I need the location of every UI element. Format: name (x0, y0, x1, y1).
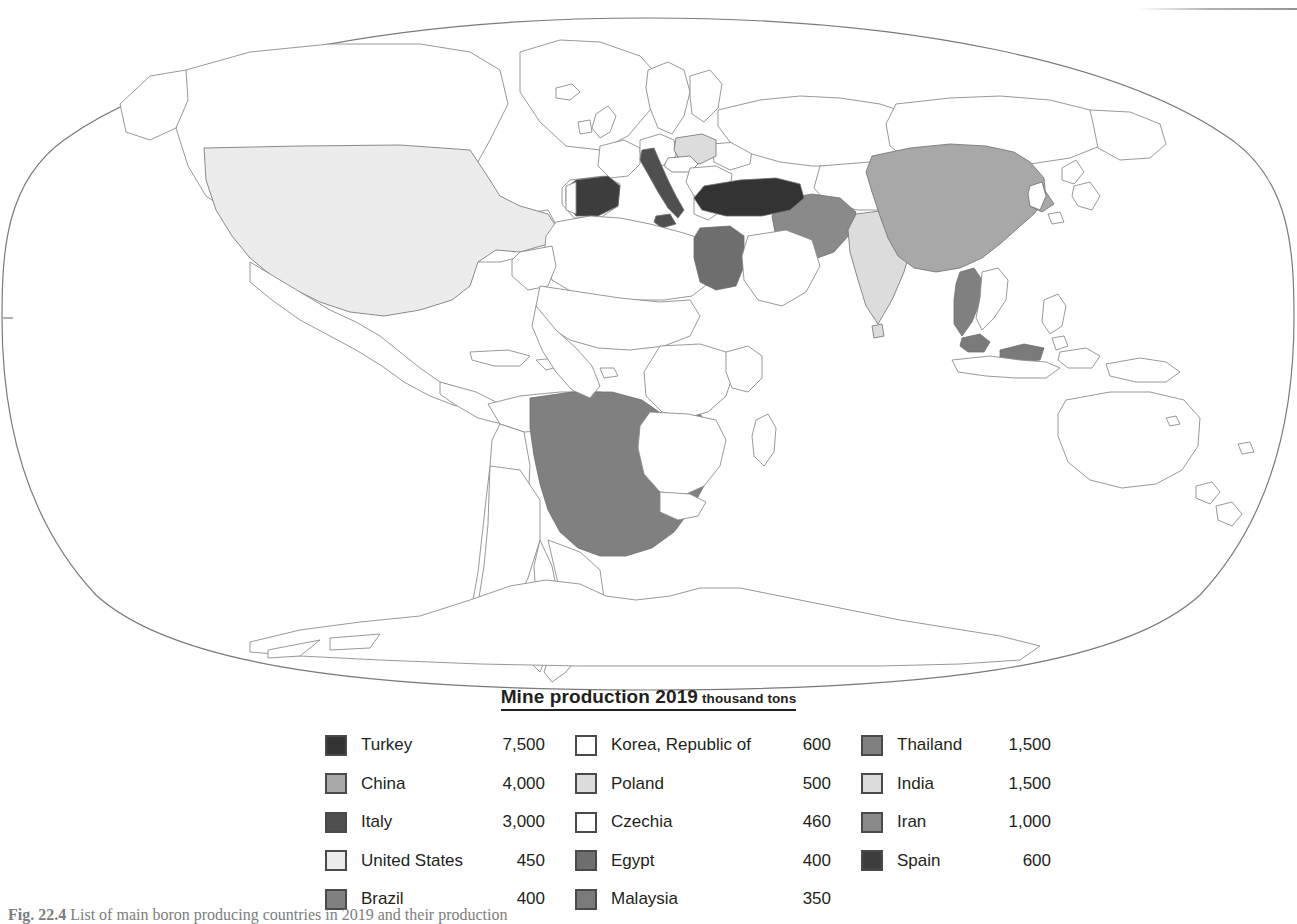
legend-swatch-korea-republic-of (575, 735, 597, 756)
legend-value-italy: 3,000 (483, 812, 545, 832)
legend-swatch-india (861, 773, 883, 794)
legend-swatch-iran (861, 812, 883, 833)
map-legend: Mine production 2019thousand tons Turkey… (0, 686, 1297, 919)
legend-value-spain: 600 (989, 851, 1051, 871)
legend-item[interactable]: United States 450 (325, 842, 545, 881)
country-egypt (694, 226, 744, 290)
legend-swatch-united-states (325, 850, 347, 871)
country-thailand (954, 268, 982, 336)
legend-item[interactable]: China 4,000 (325, 765, 545, 804)
country-united-states (204, 145, 560, 316)
legend-country-spain: Spain (897, 851, 989, 871)
legend-country-italy: Italy (361, 812, 483, 832)
antarctica (250, 580, 1040, 666)
legend-swatch-turkey (325, 735, 347, 756)
legend-title: Mine production 2019thousand tons (501, 686, 797, 711)
legend-swatch-spain (861, 850, 883, 871)
figure-caption-text: List of main boron producing countries i… (70, 906, 507, 923)
legend-swatch-czechia (575, 812, 597, 833)
oceania (1058, 392, 1254, 526)
legend-item[interactable]: Turkey 7,500 (325, 726, 545, 765)
legend-value-egypt: 400 (779, 851, 831, 871)
legend-item[interactable]: Poland 500 (575, 765, 831, 804)
legend-item[interactable]: Czechia 460 (575, 803, 831, 842)
legend-country-turkey: Turkey (361, 735, 483, 755)
legend-item[interactable]: India 1,500 (861, 765, 1051, 804)
legend-column-1: Turkey 7,500 China 4,000 Italy 3,000 Uni… (325, 726, 545, 919)
legend-country-united-states: United States (361, 851, 483, 871)
legend-item[interactable]: Thailand 1,500 (861, 726, 1051, 765)
legend-country-thailand: Thailand (897, 735, 989, 755)
legend-item[interactable]: Spain 600 (861, 842, 1051, 881)
legend-column-3: Thailand 1,500 India 1,500 Iran 1,000 Sp… (861, 726, 1051, 880)
legend-columns: Turkey 7,500 China 4,000 Italy 3,000 Uni… (0, 726, 1297, 919)
legend-value-thailand: 1,500 (989, 735, 1051, 755)
figure-caption-label: Fig. 22.4 (8, 906, 66, 923)
legend-title-unit: thousand tons (702, 691, 796, 706)
legend-value-united-states: 450 (483, 851, 545, 871)
legend-country-iran: Iran (897, 812, 989, 832)
legend-value-india: 1,500 (989, 774, 1051, 794)
world-map: .ln { fill:#ffffff; stroke:#8c8c8c; stro… (0, 0, 1297, 700)
legend-value-korea-republic-of: 600 (779, 735, 831, 755)
legend-value-china: 4,000 (483, 774, 545, 794)
legend-value-iran: 1,000 (989, 812, 1051, 832)
legend-title-row: Mine production 2019thousand tons (0, 686, 1297, 714)
legend-country-india: India (897, 774, 989, 794)
legend-country-poland: Poland (611, 774, 779, 794)
legend-swatch-thailand (861, 735, 883, 756)
legend-item[interactable]: Korea, Republic of 600 (575, 726, 831, 765)
legend-item[interactable]: Italy 3,000 (325, 803, 545, 842)
country-malaysia (960, 334, 990, 352)
legend-country-china: China (361, 774, 483, 794)
legend-country-egypt: Egypt (611, 851, 779, 871)
legend-item[interactable]: Iran 1,000 (861, 803, 1051, 842)
legend-title-main: Mine production 2019 (501, 686, 698, 707)
legend-swatch-egypt (575, 850, 597, 871)
legend-country-korea-republic-of: Korea, Republic of (611, 735, 779, 755)
legend-column-2: Korea, Republic of 600 Poland 500 Czechi… (575, 726, 831, 919)
legend-swatch-china (325, 773, 347, 794)
legend-country-czechia: Czechia (611, 812, 779, 832)
legend-value-turkey: 7,500 (483, 735, 545, 755)
figure-caption: Fig. 22.4 List of main boron producing c… (8, 906, 1108, 924)
legend-swatch-poland (575, 773, 597, 794)
legend-value-poland: 500 (779, 774, 831, 794)
legend-swatch-italy (325, 812, 347, 833)
legend-value-czechia: 460 (779, 812, 831, 832)
legend-item[interactable]: Egypt 400 (575, 842, 831, 881)
figure-page: .ln { fill:#ffffff; stroke:#8c8c8c; stro… (0, 0, 1297, 924)
